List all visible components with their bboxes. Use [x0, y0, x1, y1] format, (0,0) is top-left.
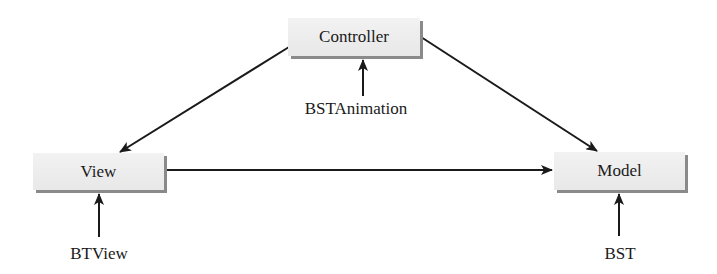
btview-label: BTView	[70, 244, 128, 264]
controller-label: Controller	[319, 27, 389, 47]
arrow-controller-to-model	[421, 37, 597, 151]
view-label: View	[81, 162, 117, 182]
bst-label: BST	[604, 244, 635, 264]
view-box: View	[33, 153, 164, 190]
model-label: Model	[597, 161, 641, 181]
arrow-controller-to-view	[120, 47, 289, 152]
controller-box: Controller	[288, 18, 420, 56]
bstanimation-label: BSTAnimation	[305, 99, 408, 119]
model-box: Model	[554, 152, 685, 190]
